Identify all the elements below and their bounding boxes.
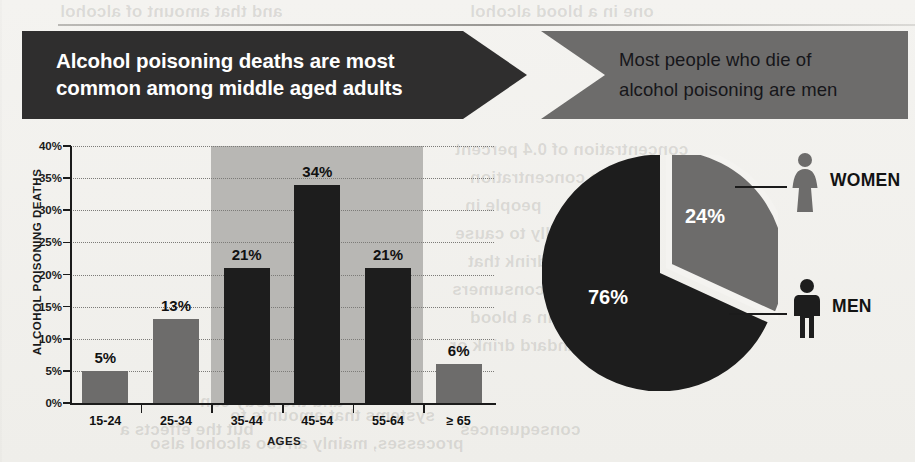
bar-fill xyxy=(365,268,411,403)
bar--65: 6% xyxy=(436,364,482,403)
y-tick-label: 15% xyxy=(16,301,62,313)
bleed-text: and that amount of alcohol xyxy=(60,2,282,22)
bar-fill xyxy=(82,371,128,403)
y-tick-label: 25% xyxy=(16,236,62,248)
bar-fill xyxy=(436,364,482,403)
x-tick-label: 55-64 xyxy=(353,414,424,428)
page-background: and that amount of alcohol one in a bloo… xyxy=(0,0,915,462)
y-tick-mark xyxy=(63,370,71,372)
y-tick-label: 10% xyxy=(16,333,62,345)
bar-chart-x-axis-title: AGES xyxy=(214,435,354,447)
x-tick-label: 25-34 xyxy=(141,414,212,428)
banner-right-pie-chart-title: Most people who die of alcohol poisoning… xyxy=(519,31,908,119)
y-tick-mark xyxy=(63,402,71,404)
y-tick-mark xyxy=(63,177,71,179)
banner-right-line1: Most people who die of xyxy=(619,49,811,70)
x-tick-label: 45-54 xyxy=(282,414,353,428)
x-tick-label: 15-24 xyxy=(70,414,141,428)
y-tick-label: 30% xyxy=(16,204,62,216)
woman-icon xyxy=(788,152,822,218)
banner-right-text: Most people who die of alcohol poisoning… xyxy=(619,45,837,105)
bar-fill xyxy=(153,319,199,403)
man-icon xyxy=(790,278,824,344)
x-tick-mark xyxy=(353,405,355,413)
scan-line-artifact xyxy=(58,24,915,26)
banner-left-line1: Alcohol poisoning deaths are most xyxy=(56,49,394,72)
y-tick-mark xyxy=(63,338,71,340)
bar-value-label: 13% xyxy=(161,297,191,314)
pie-chart: 76% 24% WOMEN MEN xyxy=(520,128,915,448)
y-tick-label: 0% xyxy=(16,397,62,409)
pie-label-women: 24% xyxy=(685,205,725,228)
bar-chart-y-axis-line xyxy=(70,146,72,405)
bar-15-24: 5% xyxy=(82,371,128,403)
bleed-text: one in a blood alcohol xyxy=(470,2,654,22)
pie-label-men: 76% xyxy=(588,286,628,309)
bar-55-64: 21% xyxy=(365,268,411,403)
y-tick-mark xyxy=(63,145,71,147)
leader-line-men xyxy=(729,313,787,315)
bar-value-label: 21% xyxy=(373,246,403,263)
x-tick-label: ≥ 65 xyxy=(423,414,494,428)
header-banners: Alcohol poisoning deaths are most common… xyxy=(0,31,915,119)
banner-left-bar-chart-title: Alcohol poisoning deaths are most common… xyxy=(22,31,527,119)
bar-value-label: 6% xyxy=(448,342,470,359)
bar-25-34: 13% xyxy=(153,319,199,403)
x-tick-mark xyxy=(282,405,284,413)
gridline xyxy=(70,242,494,243)
leader-line-women xyxy=(735,186,787,188)
pie-legend-label-men: MEN xyxy=(832,296,872,317)
bar-45-54: 34% xyxy=(294,185,340,403)
bar-value-label: 5% xyxy=(94,349,116,366)
banner-right-line2: alcohol poisoning are men xyxy=(619,79,837,100)
banner-left-text: Alcohol poisoning deaths are most common… xyxy=(56,48,403,101)
gridline xyxy=(70,275,494,276)
y-tick-mark xyxy=(63,242,71,244)
bar-chart-y-tick-labels: 0%5%10%15%20%25%30%35%40% xyxy=(16,128,62,448)
bar-value-label: 21% xyxy=(232,246,262,263)
bar-35-44: 21% xyxy=(224,268,270,403)
y-tick-label: 20% xyxy=(16,269,62,281)
gridline xyxy=(70,178,494,179)
x-tick-mark xyxy=(211,405,213,413)
y-tick-mark xyxy=(63,274,71,276)
pie-chart-graphic: 76% 24% xyxy=(542,155,778,391)
bar-chart-plot-area: 5%13%21%34%21%6% xyxy=(70,146,494,403)
gridline xyxy=(70,146,494,147)
bar-chart: ALCOHOL POISONING DEATHS 0%5%10%15%20%25… xyxy=(0,128,520,448)
gridline xyxy=(70,307,494,308)
gridline xyxy=(70,371,494,372)
bar-fill xyxy=(294,185,340,403)
pie-legend-label-women: WOMEN xyxy=(830,170,901,191)
x-tick-mark xyxy=(141,405,143,413)
pie-svg xyxy=(542,155,778,391)
y-tick-mark xyxy=(63,306,71,308)
banner-left-line2: common among middle aged adults xyxy=(56,76,403,99)
y-tick-label: 40% xyxy=(16,140,62,152)
x-tick-label: 35-44 xyxy=(211,414,282,428)
bar-value-label: 34% xyxy=(302,163,332,180)
y-tick-label: 5% xyxy=(16,365,62,377)
y-tick-label: 35% xyxy=(16,172,62,184)
gridline xyxy=(70,339,494,340)
y-tick-mark xyxy=(63,209,71,211)
x-tick-mark xyxy=(423,405,425,413)
bar-fill xyxy=(224,268,270,403)
gridline xyxy=(70,210,494,211)
